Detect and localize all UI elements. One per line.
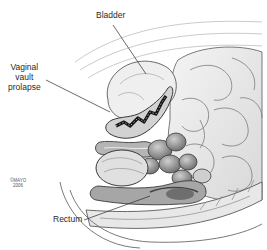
anatomy-illustration: Bladder Vaginal vault prolapse ©MAYO 200…	[0, 0, 267, 250]
pelvis-drawing	[0, 0, 267, 250]
prolapse-leader	[46, 80, 110, 112]
rectum	[90, 181, 206, 205]
label-line-1: Vaginal	[8, 62, 41, 72]
label-bladder: Bladder	[96, 10, 125, 20]
label-line-2: vault	[8, 72, 41, 82]
label-rectum: Rectum	[53, 214, 82, 224]
label-line-3: prolapse	[8, 82, 41, 92]
perineal-body	[96, 150, 148, 186]
copyright-line-2: 2006	[10, 183, 26, 188]
label-vaginal-vault-prolapse: Vaginal vault prolapse	[8, 62, 41, 92]
copyright-notice: ©MAYO 2006	[10, 178, 26, 188]
